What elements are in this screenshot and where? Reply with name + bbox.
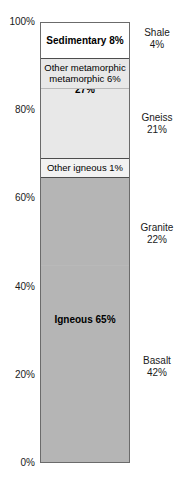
annotation-shale-name: Shale	[132, 27, 182, 39]
y-axis-tick-40: 40%	[15, 282, 35, 292]
divider-other-igneous-igneous	[41, 177, 129, 178]
annotation-gneiss-value: 21%	[132, 124, 182, 136]
bar-segment-other-igneous-label: Other igneous 1%	[45, 162, 125, 174]
divider-metamorphic-igneous	[41, 158, 129, 159]
bar-segment-other-metamorphic[interactable]: Other metamorphicmetamorphic 6%	[41, 58, 129, 88]
divider-sedimentary-metamorphic	[41, 58, 129, 59]
y-axis-tick-100: 100%	[9, 17, 35, 27]
annotation-shale-value: 4%	[132, 39, 182, 51]
y-axis-tick-60: 60%	[15, 193, 35, 203]
annotation-granite-value: 22%	[132, 234, 182, 246]
other-metamorphic-name: Other metamorphic	[44, 62, 125, 73]
right-annotations: Shale 4% Gneiss 21% Granite 22% Basalt 4…	[132, 0, 182, 479]
annotation-basalt: Basalt 42%	[132, 355, 182, 379]
bar-segment-other-igneous[interactable]: Other igneous 1%	[41, 158, 129, 176]
y-axis-tick-20: 20%	[15, 370, 35, 380]
plot-area: Igneous 65% Other igneous 1% Metamorphic…	[40, 22, 130, 463]
y-axis-tick-80: 80%	[15, 105, 35, 115]
stacked-bar-chart: 100% 80% 60% 40% 20% 0% Igneous 65% Othe…	[0, 0, 182, 479]
annotation-gneiss: Gneiss 21%	[132, 112, 182, 136]
annotation-shale: Shale 4%	[132, 27, 182, 51]
annotation-basalt-name: Basalt	[132, 355, 182, 367]
bar-segment-igneous[interactable]: Igneous 65%	[41, 177, 129, 462]
other-metamorphic-sub: metamorphic 6%	[49, 73, 120, 84]
bar-segment-other-metamorphic-label: Other metamorphicmetamorphic 6%	[42, 62, 127, 85]
annotation-basalt-value: 42%	[132, 367, 182, 379]
bar-segment-sedimentary-label: Sedimentary 8%	[44, 35, 125, 47]
annotation-gneiss-name: Gneiss	[132, 112, 182, 124]
divider-granite-basalt	[41, 265, 129, 266]
bar-segment-igneous-label: Igneous 65%	[52, 314, 117, 326]
y-axis-tick-0: 0%	[21, 458, 35, 468]
y-axis: 100% 80% 60% 40% 20% 0%	[0, 0, 38, 479]
annotation-granite: Granite 22%	[132, 222, 182, 246]
annotation-granite-name: Granite	[132, 222, 182, 234]
divider-other-metamorphic-gneiss	[41, 88, 129, 89]
bar-segment-sedimentary[interactable]: Sedimentary 8%	[41, 23, 129, 58]
